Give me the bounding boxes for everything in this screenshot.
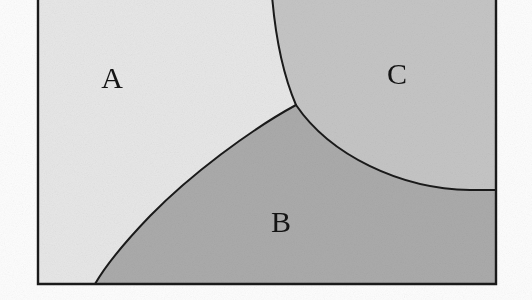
region-label-c: C (387, 57, 407, 90)
region-label-a: A (101, 61, 123, 94)
figure-canvas: A B C (0, 0, 532, 300)
region-partition-diagram: A B C (0, 0, 532, 300)
region-label-b: B (271, 205, 291, 238)
